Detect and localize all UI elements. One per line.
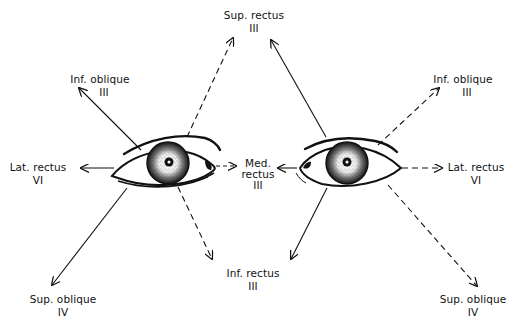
label-med-rectus: Med. rectus III — [241, 158, 274, 191]
label-inf-rectus: Inf. rectus III — [226, 267, 279, 293]
label-inf-oblique-left: Inf. oblique III — [433, 73, 492, 99]
right-eye-drawing — [112, 136, 220, 187]
arrow-sup-rectus-dashed — [187, 38, 233, 137]
label-lat-rectus-left: Lat. rectus VI — [448, 161, 505, 187]
arrow-sup-oblique-dashed — [388, 185, 477, 286]
extraocular-muscles-diagram: Sup. rectus III Inf. oblique III Inf. ob… — [0, 0, 518, 329]
left-eye-drawing — [296, 138, 401, 186]
arrow-sup-oblique-solid — [52, 188, 127, 285]
label-lat-rectus-right: Lat. rectus VI — [10, 161, 67, 187]
label-inf-oblique-right: Inf. oblique III — [70, 73, 129, 99]
arrow-inf-rectus-solid — [291, 188, 327, 259]
label-sup-rectus: Sup. rectus III — [224, 9, 284, 35]
label-sup-oblique-left: Sup. oblique IV — [440, 293, 507, 319]
arrow-inf-oblique-dashed — [378, 88, 439, 145]
label-sup-oblique-right: Sup. oblique IV — [30, 293, 97, 319]
arrow-inf-rectus-dashed — [178, 187, 212, 259]
arrow-sup-rectus-solid — [271, 40, 326, 137]
